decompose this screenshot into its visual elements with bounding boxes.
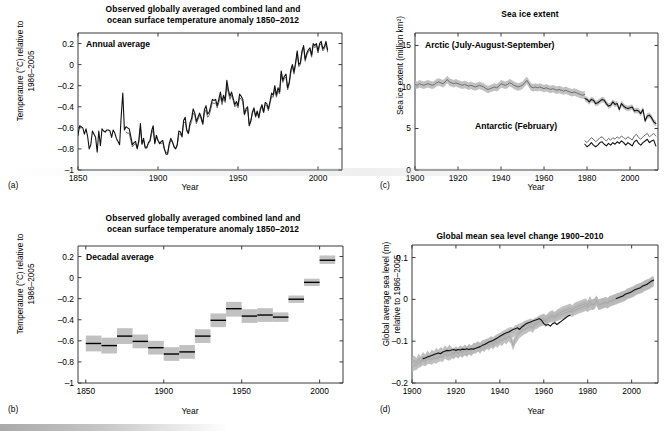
svg-text:15: 15 — [402, 40, 412, 50]
panel-d-letter: (d) — [380, 404, 390, 414]
svg-text:0.2: 0.2 — [62, 39, 74, 49]
svg-text:–0.8: –0.8 — [58, 357, 75, 367]
svg-text:2000: 2000 — [310, 386, 329, 396]
panel-a-xlabel: Year — [160, 182, 220, 192]
panel-b-letter: (b) — [8, 404, 18, 414]
svg-text:1950: 1950 — [232, 386, 251, 396]
panel-b-plot: 1850190019502000–1–0.8–0.6–0.4–0.200.2 — [0, 205, 352, 434]
svg-text:–0.8: –0.8 — [58, 144, 75, 154]
svg-text:0: 0 — [69, 273, 74, 283]
panel-b-xlabel: Year — [160, 406, 220, 416]
svg-text:1940: 1940 — [491, 386, 510, 396]
svg-text:–0.6: –0.6 — [58, 336, 75, 346]
svg-text:–1: –1 — [65, 378, 75, 388]
panel-c-xlabel: Year — [506, 182, 566, 192]
svg-text:–0.4: –0.4 — [58, 315, 75, 325]
svg-text:5: 5 — [406, 123, 411, 133]
svg-text:0: 0 — [69, 60, 74, 70]
svg-text:–0.2: –0.2 — [392, 378, 409, 388]
panel-a-letter: (a) — [8, 180, 18, 190]
svg-text:1850: 1850 — [76, 386, 95, 396]
svg-text:1960: 1960 — [534, 386, 553, 396]
panel-c-letter: (c) — [380, 180, 390, 190]
svg-text:1980: 1980 — [578, 386, 597, 396]
svg-text:1900: 1900 — [154, 386, 173, 396]
scan-artifact-upper — [0, 168, 672, 176]
svg-text:0.1: 0.1 — [396, 253, 408, 263]
svg-text:10: 10 — [402, 82, 412, 92]
figure-page: { "figure": { "caption_letters": ["(a)",… — [0, 0, 672, 434]
svg-text:–0.2: –0.2 — [58, 81, 75, 91]
svg-text:–0.6: –0.6 — [58, 123, 75, 133]
panel-b-temperature-decadal: Observed globally averaged combined land… — [0, 205, 352, 434]
panel-d-sea-level: Global mean sea level change 1900–2010 G… — [360, 205, 672, 434]
svg-text:0.2: 0.2 — [62, 252, 74, 262]
svg-text:1920: 1920 — [447, 386, 466, 396]
panel-d-plot: 190019201940196019802000–0.2–0.100.1 — [360, 205, 672, 434]
svg-text:0: 0 — [403, 294, 408, 304]
svg-text:–0.2: –0.2 — [58, 294, 75, 304]
scan-artifact-lower — [0, 424, 228, 431]
svg-text:2000: 2000 — [622, 386, 641, 396]
svg-text:–0.4: –0.4 — [58, 102, 75, 112]
svg-text:–0.1: –0.1 — [392, 336, 409, 346]
panel-d-xlabel: Year — [506, 406, 566, 416]
